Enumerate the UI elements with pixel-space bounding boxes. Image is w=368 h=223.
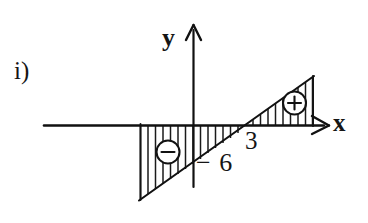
sign-chart-figure xyxy=(0,0,368,223)
negative-sign-marker xyxy=(157,141,180,164)
figure-canvas: i) y x 3 − 6 xyxy=(0,0,368,223)
positive-sign-marker xyxy=(283,92,306,115)
y-intercept-label: − 6 xyxy=(196,150,233,176)
y-axis-label: y xyxy=(162,25,175,51)
item-enumeration-label: i) xyxy=(14,58,29,83)
x-axis-label: x xyxy=(333,110,346,135)
x-intercept-label: 3 xyxy=(245,128,258,153)
